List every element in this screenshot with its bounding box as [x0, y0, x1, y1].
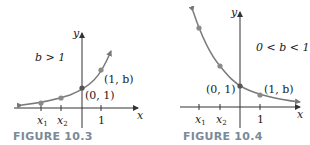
- y-axis-label: y: [72, 27, 80, 40]
- figure-10-3: b > 1 (1, b) (0, 1) y x x1 x2 1 FIGURE10…: [13, 27, 144, 143]
- point-1-b: [257, 92, 262, 97]
- condition-label: b > 1: [35, 51, 65, 64]
- point-1-b-label: (1, b): [264, 83, 294, 96]
- point-x2: [58, 95, 63, 100]
- tick-label-1: 1: [257, 113, 264, 126]
- tick-label-1: 1: [98, 114, 105, 127]
- point-x2: [217, 63, 222, 68]
- point-0-1-label: (0, 1): [85, 89, 115, 102]
- point-1-b: [98, 67, 103, 72]
- x-axis-label: x: [297, 108, 304, 121]
- y-axis-label: y: [230, 6, 238, 19]
- x-axis-label: x: [137, 109, 144, 122]
- tick-label-x1: x1: [37, 114, 48, 128]
- tick-label-x1: x1: [195, 113, 206, 127]
- figure-10-4: 0 < b < 1 (0, 1) (1, b) y x x1 x2 1 FIGU…: [180, 6, 309, 143]
- tick-label-x2: x2: [57, 114, 68, 128]
- figure-caption: FIGURE10.4: [183, 130, 263, 143]
- figures-canvas: b > 1 (1, b) (0, 1) y x x1 x2 1 FIGURE10…: [0, 0, 310, 145]
- point-0-1: [79, 85, 84, 90]
- point-x1: [196, 25, 201, 30]
- condition-label: 0 < b < 1: [256, 41, 309, 54]
- point-0-1: [237, 83, 242, 88]
- point-x1: [38, 100, 43, 105]
- point-0-1-label: (0, 1): [206, 83, 236, 96]
- point-1-b-label: (1, b): [104, 73, 134, 86]
- tick-label-x2: x2: [216, 113, 227, 127]
- figure-caption: FIGURE10.3: [13, 130, 93, 143]
